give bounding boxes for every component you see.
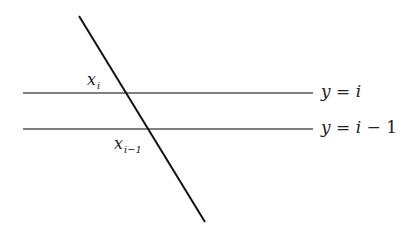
label-rhs-rest: − 1 (361, 117, 397, 137)
label-equals: = (331, 117, 356, 137)
label-y: y (321, 81, 331, 101)
label-x-i-minus-1-sub: i−1 (124, 144, 142, 155)
label-x-i-base: x (87, 70, 96, 89)
diagram-lines (0, 0, 407, 230)
transversal-line (79, 16, 205, 222)
label-y-equals-i: y = i (321, 81, 361, 101)
label-x-i: xi (87, 70, 100, 89)
label-x-i-minus-1-base: x (114, 134, 123, 153)
label-x-i-minus-1: xi−1 (114, 134, 142, 153)
label-y: y (321, 117, 331, 137)
label-equals: = (331, 81, 356, 101)
label-y-equals-i-minus-1: y = i − 1 (321, 117, 397, 137)
label-x-i-sub: i (97, 80, 100, 91)
label-rhs: i (356, 81, 361, 101)
diagram-canvas: xi xi−1 y = i y = i − 1 (0, 0, 407, 230)
